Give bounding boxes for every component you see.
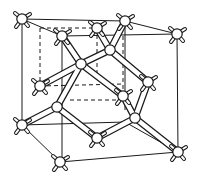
atom [52, 102, 62, 112]
atom [105, 45, 115, 55]
atom [33, 80, 48, 94]
atom [53, 156, 68, 170]
atom [130, 113, 140, 123]
atom [76, 59, 86, 69]
atom [15, 119, 30, 133]
crystal-lattice-figure: Diamond cubic crystal structure [0, 0, 204, 188]
atom [171, 146, 186, 160]
lattice-diagram [0, 0, 204, 188]
atom [90, 132, 105, 146]
